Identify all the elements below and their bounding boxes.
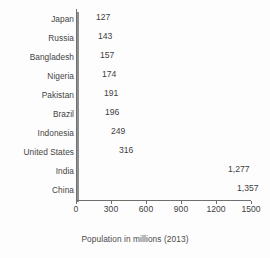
population-bar-chart: Japan 127 Russia 143 Bangladesh 157 Nige… (0, 0, 270, 258)
bar-container (77, 184, 79, 197)
value-label: 316 (119, 145, 133, 156)
value-label: 174 (102, 69, 116, 80)
bar-row: India 1,277 (0, 162, 270, 181)
category-label: China (0, 186, 74, 195)
value-label: 127 (96, 12, 110, 23)
bar-container (77, 51, 79, 64)
value-label: 191 (104, 88, 118, 99)
category-label: Brazil (0, 110, 74, 119)
bar-row: Brazil 196 (0, 105, 270, 124)
x-axis-tick-label: 1200 (196, 204, 236, 215)
category-label: India (0, 167, 74, 176)
value-label: 143 (98, 31, 112, 42)
x-axis-title: Population in millions (2013) (0, 234, 270, 244)
x-axis-tick-label: 0 (56, 204, 96, 215)
category-label: Pakistan (0, 91, 74, 100)
y-axis-line (76, 9, 77, 201)
bar-row: Indonesia 249 (0, 124, 270, 143)
category-label: Nigeria (0, 72, 74, 81)
bar-row: Nigeria 174 (0, 67, 270, 86)
bar-container (77, 13, 79, 26)
category-label: Bangladesh (0, 53, 74, 62)
bar-container (77, 32, 79, 45)
bar-container (77, 165, 79, 178)
bar-container (77, 146, 79, 159)
bar-row: Russia 143 (0, 29, 270, 48)
x-axis-tick-label: 1500 (231, 204, 270, 215)
value-label: 1,357 (237, 183, 259, 194)
value-label: 157 (100, 50, 114, 61)
bar-row: Pakistan 191 (0, 86, 270, 105)
value-label: 1,277 (228, 164, 250, 175)
value-label: 196 (105, 107, 119, 118)
category-label: Indonesia (0, 129, 74, 138)
category-label: United States (0, 148, 74, 157)
bar-row: Bangladesh 157 (0, 48, 270, 67)
bar-row: Japan 127 (0, 10, 270, 29)
bar-container (77, 89, 79, 102)
value-label: 249 (111, 126, 125, 137)
category-label: Japan (0, 15, 74, 24)
category-label: Russia (0, 34, 74, 43)
bar-container (77, 108, 79, 121)
bar-row: China 1,357 (0, 181, 270, 200)
bar-row: United States 316 (0, 143, 270, 162)
x-axis-tick-label: 300 (91, 204, 131, 215)
x-axis-tick-label: 600 (126, 204, 166, 215)
x-axis-tick-label: 900 (161, 204, 201, 215)
bar-container (77, 127, 79, 140)
bar-container (77, 70, 79, 83)
plot-area: Japan 127 Russia 143 Bangladesh 157 Nige… (0, 0, 270, 210)
x-axis-line (76, 200, 251, 201)
